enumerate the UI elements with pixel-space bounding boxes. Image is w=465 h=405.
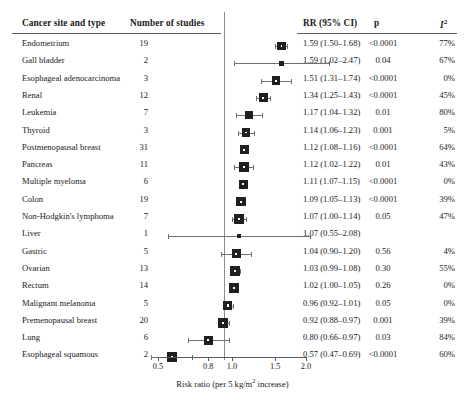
ci-cap-upper (240, 269, 241, 274)
row-p-value: <0.0001 (352, 349, 414, 359)
ci-cap-lower (234, 61, 235, 66)
column-header-i2: I2 (440, 18, 447, 30)
x-axis-tick (306, 357, 307, 361)
ci-cap-lower (151, 355, 152, 360)
ci-cap-upper (253, 165, 254, 170)
ci-cap-lower (238, 131, 239, 136)
effect-size-marker (236, 197, 246, 207)
table-row: Postmenopausal breast311.12 (1.08–1.16)<… (0, 142, 465, 159)
row-p-value: <0.0001 (352, 194, 414, 204)
column-header-site: Cancer site and type (22, 18, 105, 28)
row-i2-value: 55% (408, 263, 455, 273)
marker-center-dot (245, 132, 247, 134)
row-i2-value: 84% (408, 332, 455, 342)
effect-size-marker (277, 42, 286, 51)
row-site-label: Multiple myeloma (22, 176, 86, 186)
row-site-label: Thyroid (22, 125, 50, 135)
effect-size-marker (230, 266, 240, 276)
marker-center-dot (243, 166, 245, 168)
ci-cap-upper (229, 338, 230, 343)
effect-size-marker (242, 128, 251, 137)
ci-cap-upper (262, 113, 263, 118)
row-site-label: Renal (22, 90, 42, 100)
ci-cap-lower (261, 79, 262, 84)
ci-cap-lower (236, 113, 237, 118)
marker-center-dot (262, 97, 264, 99)
row-number-of-studies: 11 (100, 159, 148, 169)
table-row: Thyroid31.14 (1.06–1.23)0.0015% (0, 125, 465, 142)
row-site-label: Gall bladder (22, 55, 65, 65)
effect-size-marker (245, 111, 253, 119)
x-axis-tick (158, 357, 159, 361)
effect-size-marker (239, 162, 249, 172)
ci-cap-lower (232, 217, 233, 222)
row-site-label: Malignant melanoma (22, 298, 95, 308)
table-row: Gall bladder21.59 (1.02–2.47)0.0467% (0, 55, 465, 72)
ci-cap-lower (275, 44, 276, 49)
effect-size-marker (237, 234, 241, 238)
ci-cap-lower (188, 338, 189, 343)
effect-size-marker (234, 214, 244, 224)
row-number-of-studies: 6 (100, 332, 148, 342)
row-site-label: Liver (22, 228, 41, 238)
forest-plot: Cancer site and type Number of studies R… (0, 0, 465, 405)
marker-center-dot (233, 287, 235, 289)
column-header-number-of-studies: Number of studies (130, 18, 204, 28)
ci-cap-lower (234, 165, 235, 170)
ci-cap-lower (168, 234, 169, 239)
row-number-of-studies: 13 (100, 263, 148, 273)
table-row: Colon191.09 (1.05–1.13)<0.000139% (0, 194, 465, 211)
row-number-of-studies: 12 (100, 90, 148, 100)
x-axis-tick (208, 357, 209, 361)
table-row: Renal121.34 (1.25–1.43)<0.000145% (0, 90, 465, 107)
row-site-label: Colon (22, 194, 43, 204)
row-i2-value: 80% (408, 107, 455, 117)
row-p-value: 0.05 (352, 211, 414, 221)
marker-center-dot (222, 322, 224, 324)
row-p-value: <0.0001 (352, 73, 414, 83)
x-axis-tick (275, 357, 276, 361)
marker-center-dot (240, 201, 242, 203)
row-p-value: 0.56 (352, 246, 414, 256)
row-number-of-studies: 19 (100, 38, 148, 48)
row-i2-value: 60% (408, 349, 455, 359)
row-p-value: 0.05 (352, 298, 414, 308)
marker-center-dot (227, 304, 229, 306)
effect-size-marker (259, 93, 268, 102)
row-i2-value: 0% (408, 73, 455, 83)
row-number-of-studies: 19 (100, 194, 148, 204)
ci-cap-upper (310, 234, 311, 239)
x-axis-tick-label: 1.0 (217, 362, 247, 371)
row-site-label: Rectum (22, 280, 49, 290)
row-i2-value: 64% (408, 142, 455, 152)
row-p-value: <0.0001 (352, 176, 414, 186)
marker-center-dot (242, 183, 244, 185)
row-i2-value: 39% (408, 194, 455, 204)
row-site-label: Lung (22, 332, 40, 342)
row-p-value: 0.01 (352, 159, 414, 169)
table-row: Pancreas111.12 (1.02–1.22)0.0143% (0, 159, 465, 176)
effect-size-marker (240, 145, 249, 154)
row-i2-value: 77% (408, 38, 455, 48)
row-i2-value: 0% (408, 298, 455, 308)
header-rule-left (12, 33, 221, 34)
row-number-of-studies: 2 (100, 55, 148, 65)
row-site-label: Endometrium (22, 38, 69, 48)
effect-size-marker (204, 336, 213, 345)
effect-size-marker (239, 180, 248, 189)
row-i2-value: 47% (408, 211, 455, 221)
row-number-of-studies: 5 (100, 246, 148, 256)
axis-title-main: Risk ratio (per 5 kg/m (176, 379, 252, 389)
row-number-of-studies: 20 (100, 315, 148, 325)
i2-superscript: 2 (444, 18, 448, 26)
row-number-of-studies: 14 (100, 280, 148, 290)
row-p-value: <0.0001 (352, 90, 414, 100)
row-i2-value: 45% (408, 90, 455, 100)
row-p-value: 0.30 (352, 263, 414, 273)
ci-cap-upper (329, 61, 330, 66)
marker-center-dot (235, 253, 237, 255)
ci-cap-upper (233, 304, 234, 309)
row-i2-value: 43% (408, 159, 455, 169)
effect-size-marker (229, 283, 239, 293)
row-i2-value: 0% (408, 280, 455, 290)
